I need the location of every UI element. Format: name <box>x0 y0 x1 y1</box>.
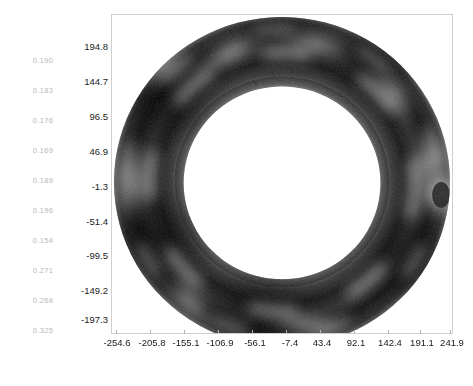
y-tick-label-0: 194.8 <box>64 41 108 52</box>
x-tick-label-2: -155.1 <box>173 337 200 348</box>
x-tick-label-6: 43.4 <box>313 337 332 348</box>
y-tick-label-7: -149.2 <box>64 285 108 296</box>
x-tick-mark-7 <box>354 330 355 334</box>
y-tick-label-6: -99.5 <box>64 250 108 261</box>
y-axis-labels: 194.8 144.7 96.5 46.9 -1.3 -51.4 -99.5 -… <box>62 0 108 386</box>
x-tick-mark-8 <box>388 330 389 334</box>
x-tick-mark-5 <box>286 330 287 334</box>
x-tick-mark-2 <box>184 330 185 334</box>
x-tick-label-7: 92.1 <box>347 337 366 348</box>
figure-root: 0.190 0.183 0.176 0.169 0.189 0.196 0.15… <box>0 0 473 386</box>
x-axis-labels: -254.6 -205.8 -155.1 -106.9 -56.1 -7.4 4… <box>0 337 473 353</box>
x-tick-label-9: 191.1 <box>410 337 434 348</box>
y-tick-label-3: 46.9 <box>64 146 108 157</box>
x-tick-label-4: -56.1 <box>244 337 266 348</box>
y-tick-label-8: -197.3 <box>64 314 108 325</box>
x-tick-label-1: -205.8 <box>139 337 166 348</box>
x-tick-mark-6 <box>320 330 321 334</box>
x-tick-label-5: -7.4 <box>282 337 298 348</box>
plot-area[interactable] <box>111 14 453 334</box>
x-tick-mark-0 <box>116 330 117 334</box>
y-tick-label-1: 144.7 <box>64 76 108 87</box>
x-tick-mark-4 <box>252 330 253 334</box>
y-tick-label-2: 96.5 <box>64 111 108 122</box>
x-tick-mark-1 <box>150 330 151 334</box>
annulus-heatmap <box>112 15 452 333</box>
x-tick-mark-9 <box>420 330 421 334</box>
x-tick-mark-10 <box>450 330 451 334</box>
x-tick-label-3: -106.9 <box>207 337 234 348</box>
x-tick-mark-3 <box>218 330 219 334</box>
x-tick-label-8: 142.4 <box>378 337 402 348</box>
x-tick-label-10: 241.9 <box>440 337 464 348</box>
x-tick-label-0: -254.6 <box>104 337 131 348</box>
y-tick-label-5: -51.4 <box>64 216 108 227</box>
y-tick-label-4: -1.3 <box>64 181 108 192</box>
